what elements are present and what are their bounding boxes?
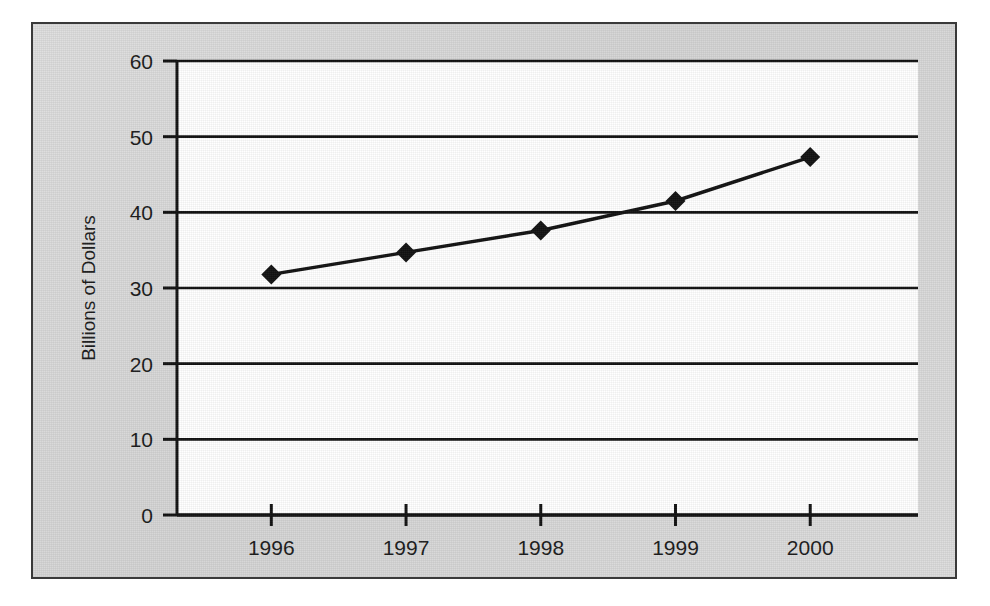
- y-tick-label: 60: [130, 50, 153, 73]
- y-tick-label: 50: [130, 126, 153, 149]
- y-tick-label: 30: [130, 277, 153, 300]
- chart-panel: 0102030405060 19961997199819992000 Billi…: [31, 22, 957, 579]
- x-tick-label: 1999: [652, 536, 699, 559]
- x-tick-label: 1996: [248, 536, 295, 559]
- y-tick-label: 0: [141, 504, 153, 527]
- y-axis-title: Billions of Dollars: [78, 215, 99, 361]
- x-tick-label: 1997: [383, 536, 430, 559]
- y-tick-label: 10: [130, 428, 153, 451]
- line-chart: 0102030405060 19961997199819992000 Billi…: [33, 24, 955, 577]
- y-tick-label: 20: [130, 353, 153, 376]
- y-axis-ticks: 0102030405060: [130, 50, 177, 527]
- y-tick-label: 40: [130, 201, 153, 224]
- x-tick-label: 2000: [787, 536, 834, 559]
- x-tick-label: 1998: [517, 536, 564, 559]
- chart-page: 0102030405060 19961997199819992000 Billi…: [0, 0, 990, 606]
